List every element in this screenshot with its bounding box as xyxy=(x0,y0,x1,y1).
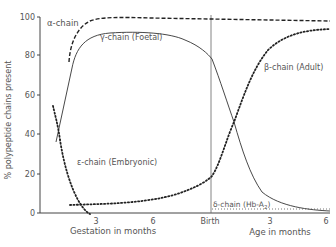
svg-text:3: 3 xyxy=(267,217,272,226)
x-label-gestation: Gestation in months xyxy=(70,226,157,236)
svg-text:60: 60 xyxy=(25,91,35,100)
y-ticks: 0 20 40 60 80 100 xyxy=(20,13,40,218)
epsilon-chain-label: ε-chain (Embryonic) xyxy=(77,158,157,167)
svg-text:Birth: Birth xyxy=(200,217,219,226)
svg-text:6: 6 xyxy=(150,217,155,226)
svg-text:100: 100 xyxy=(20,13,35,22)
x-label-age: Age in months xyxy=(249,227,311,237)
svg-text:6: 6 xyxy=(323,217,328,226)
svg-text:20: 20 xyxy=(25,170,35,179)
svg-text:80: 80 xyxy=(25,51,35,60)
gamma-chain-line xyxy=(56,32,330,211)
hemoglobin-chain-chart: 0 20 40 60 80 100 3 6 Birth 3 6 Gestatio… xyxy=(0,0,336,247)
svg-text:40: 40 xyxy=(25,130,35,139)
delta-chain-label: δ-chain (Hb-A2) xyxy=(213,200,271,210)
svg-text:3: 3 xyxy=(93,217,98,226)
svg-text:0: 0 xyxy=(30,209,35,218)
beta-chain-label: β-chain (Adult) xyxy=(264,63,323,72)
gamma-chain-label: γ-chain (Foetal) xyxy=(100,33,162,42)
beta-chain-line xyxy=(70,29,330,205)
y-label: % polypeptide chains present xyxy=(4,61,13,180)
alpha-chain-label: α-chain xyxy=(47,18,79,28)
x-ticks: 3 6 Birth 3 6 xyxy=(93,217,328,226)
